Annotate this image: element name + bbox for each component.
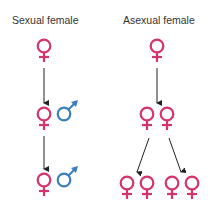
female-symbol [38,108,51,130]
male-symbol [58,166,78,186]
female-symbol [141,108,154,130]
female-symbol [141,177,154,199]
female-symbol [186,177,199,199]
female-symbol [161,108,174,130]
arrow-diagonal-right [169,138,181,172]
female-symbol [121,177,134,199]
female-symbol [38,40,51,62]
male-symbol [58,100,78,120]
diagram-canvas [0,0,210,216]
arrow-diagonal-left [137,138,149,172]
female-symbol [151,40,164,62]
female-symbol [166,177,179,199]
female-symbol [38,174,51,196]
